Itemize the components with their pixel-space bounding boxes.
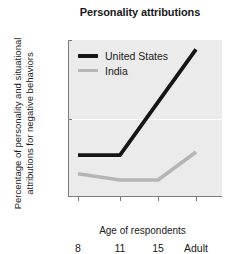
plot-area: United States India 8 11 15 Adult bbox=[68, 40, 222, 197]
x-tick-label-15: 15 bbox=[152, 242, 164, 254]
legend-label-india: India bbox=[105, 65, 128, 77]
y-axis-label: Percentage of personality and situationa… bbox=[12, 24, 35, 224]
legend: United States India bbox=[78, 48, 168, 78]
legend-swatch-united-states bbox=[78, 54, 98, 58]
x-axis-label: Age of respondents bbox=[60, 225, 225, 236]
legend-item-united-states: United States bbox=[78, 48, 168, 63]
x-tick-label-adult: Adult bbox=[184, 242, 208, 254]
chart-title: Personality attributions bbox=[60, 6, 220, 18]
y-axis-label-line2: attributions for negative behaviors bbox=[23, 24, 35, 224]
legend-item-india: India bbox=[78, 63, 168, 78]
x-tick-label-8: 8 bbox=[75, 242, 81, 254]
legend-label-united-states: United States bbox=[105, 50, 168, 62]
legend-swatch-india bbox=[78, 69, 98, 72]
y-axis-label-line1: Percentage of personality and situationa… bbox=[12, 24, 24, 224]
x-tick-label-11: 11 bbox=[115, 242, 126, 254]
